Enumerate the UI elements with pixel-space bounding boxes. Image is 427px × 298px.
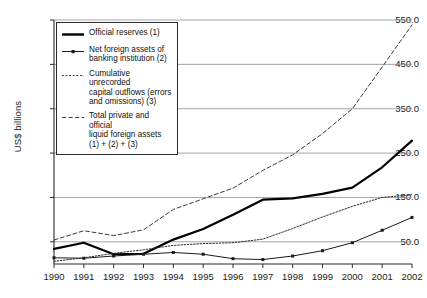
legend-item: Cumulative unrecorded capital outflows (… [61, 69, 173, 107]
legend-item-label: Official reserves (1) [89, 28, 160, 37]
legend-line-icon [61, 29, 85, 40]
legend-line-icon [61, 46, 85, 57]
legend-item-label: Cumulative unrecorded capital outflows (… [89, 69, 173, 107]
legend-item: Total private and official liquid foreig… [61, 111, 173, 149]
chart-legend: Official reserves (1)Net foreign assets … [56, 22, 178, 155]
legend-item: Net foreign assets of banking institutio… [61, 45, 173, 64]
legend-line-icon [61, 70, 85, 81]
legend-item: Official reserves (1) [61, 28, 173, 40]
legend-item-label: Net foreign assets of banking institutio… [89, 45, 167, 64]
legend-line-icon [61, 112, 85, 123]
legend-item-label: Total private and official liquid foreig… [89, 111, 173, 149]
